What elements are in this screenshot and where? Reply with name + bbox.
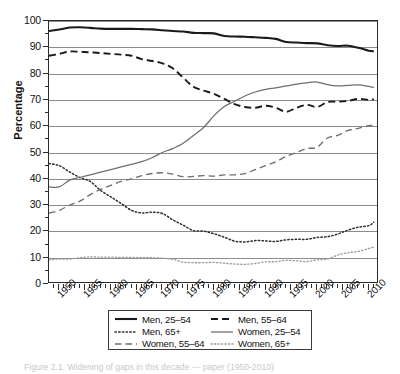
legend-item[interactable]: Women, 65+ bbox=[210, 338, 306, 349]
legend-swatch-dashed-gray bbox=[114, 339, 138, 349]
series-line bbox=[49, 164, 374, 242]
y-tick-label: 60 bbox=[30, 120, 41, 130]
legend-item[interactable]: Men, 55–64 bbox=[210, 314, 306, 325]
y-tick-label: 100 bbox=[24, 15, 41, 25]
y-tick-label: 30 bbox=[30, 199, 41, 209]
y-axis: 0102030405060708090100 bbox=[0, 0, 48, 303]
series-line bbox=[49, 247, 374, 264]
legend-swatch-dotted-gray bbox=[210, 339, 234, 349]
legend: Men, 25–54Men, 55–64Men, 65+Women, 25–54… bbox=[108, 310, 312, 350]
y-tick-label: 90 bbox=[30, 41, 41, 51]
legend-label: Women, 65+ bbox=[238, 338, 291, 349]
legend-label: Men, 55–64 bbox=[238, 314, 287, 325]
legend-swatch-dotted-black bbox=[114, 327, 138, 337]
figure-caption: Figure 2.1. Widening of gaps in this dec… bbox=[24, 362, 384, 372]
legend-item[interactable]: Women, 25–54 bbox=[210, 326, 306, 337]
series-line bbox=[49, 51, 374, 111]
legend-swatch-solid-gray bbox=[210, 327, 234, 337]
legend-label: Men, 25–54 bbox=[142, 314, 191, 325]
legend-item[interactable]: Men, 65+ bbox=[114, 326, 210, 337]
legend-label: Women, 25–54 bbox=[238, 326, 301, 337]
series-layer bbox=[49, 21, 379, 284]
plot-area bbox=[48, 20, 378, 283]
y-tick-label: 40 bbox=[30, 173, 41, 183]
legend-row: Men, 65+Women, 25–54 bbox=[114, 325, 306, 337]
legend-item[interactable]: Men, 25–54 bbox=[114, 314, 210, 325]
series-line bbox=[49, 82, 374, 188]
y-tick-label: 50 bbox=[30, 147, 41, 157]
y-tick-label: 80 bbox=[30, 68, 41, 78]
y-tick-label: 10 bbox=[30, 252, 41, 262]
legend-label: Men, 65+ bbox=[142, 326, 181, 337]
legend-swatch-dashed-black bbox=[210, 314, 234, 324]
legend-swatch-solid-black-thick bbox=[114, 314, 138, 324]
legend-row: Men, 25–54Men, 55–64 bbox=[114, 313, 306, 325]
y-tick-label: 20 bbox=[30, 225, 41, 235]
legend-label: Women, 55–64 bbox=[142, 338, 205, 349]
y-tick-label: 70 bbox=[30, 94, 41, 104]
legend-row: Women, 55–64Women, 65+ bbox=[114, 338, 306, 350]
series-line bbox=[49, 27, 374, 51]
figure-container: Percentage 0102030405060708090100 195019… bbox=[0, 0, 400, 374]
legend-item[interactable]: Women, 55–64 bbox=[114, 338, 210, 349]
series-line bbox=[49, 125, 374, 213]
